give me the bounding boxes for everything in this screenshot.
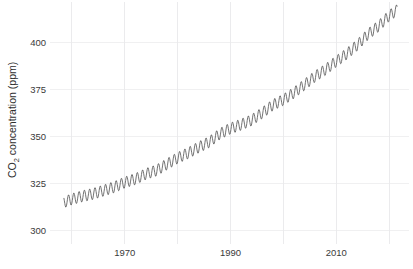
co2-concentration-chart: 300325350375400 197019902010 CO2 concent… xyxy=(0,0,413,269)
y-tick-label-400: 400 xyxy=(30,37,46,48)
x-tick-label-2010: 2010 xyxy=(326,247,347,258)
chart-background xyxy=(0,0,413,269)
y-tick-label-375: 375 xyxy=(30,84,46,95)
y-tick-label-325: 325 xyxy=(30,178,46,189)
x-tick-label-1990: 1990 xyxy=(220,247,241,258)
y-axis-title-pre: CO xyxy=(6,162,18,178)
y-tick-label-300: 300 xyxy=(30,225,46,236)
x-tick-label-1970: 1970 xyxy=(114,247,135,258)
chart-canvas: 300325350375400 197019902010 CO2 concent… xyxy=(0,0,413,269)
y-tick-label-350: 350 xyxy=(30,131,46,142)
y-axis-title-post: concentration (ppm) xyxy=(6,62,18,158)
